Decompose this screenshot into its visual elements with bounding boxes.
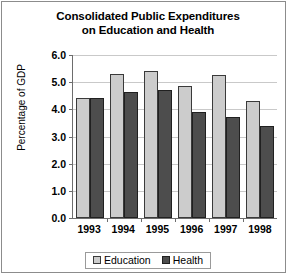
y-axis-tick-label: 2.0 [51, 158, 66, 169]
x-axis-labels: 199319941995199619971998 [72, 223, 277, 235]
bar-health-1996[interactable] [192, 112, 206, 218]
bar-education-1995[interactable] [144, 71, 158, 218]
y-axis-tick-label: 6.0 [51, 50, 66, 61]
bar-group [175, 55, 209, 218]
bar-education-1996[interactable] [178, 86, 192, 218]
x-axis-tick [243, 218, 244, 222]
chart-title-line-1: Consolidated Public Expenditures [28, 9, 268, 23]
y-axis-tick-label: 1.0 [51, 186, 66, 197]
y-axis-title: Percentage of GDP [16, 33, 27, 183]
legend-swatch-health-icon [162, 256, 170, 264]
bar-education-1994[interactable] [110, 74, 124, 218]
bar-health-1995[interactable] [158, 90, 172, 218]
bar-health-1993[interactable] [90, 98, 104, 218]
chart-title-line-2: on Education and Health [28, 23, 268, 37]
chart-title: Consolidated Public Expenditures on Educ… [28, 9, 268, 37]
bar-health-1994[interactable] [124, 92, 138, 218]
y-axis-tick-label: 5.0 [51, 77, 66, 88]
bar-group [73, 55, 107, 218]
x-axis-label-1994: 1994 [106, 223, 140, 235]
x-axis-label-1998: 1998 [243, 223, 277, 235]
legend-item-education[interactable]: Education [93, 254, 151, 266]
x-axis-tick [107, 218, 108, 222]
bar-education-1993[interactable] [76, 98, 90, 218]
bar-group [107, 55, 141, 218]
legend-swatch-education-icon [93, 256, 101, 264]
legend-label: Education [104, 254, 151, 266]
bar-education-1997[interactable] [212, 75, 226, 218]
y-axis-tick-label: 4.0 [51, 104, 66, 115]
x-axis-label-1997: 1997 [209, 223, 243, 235]
x-axis-label-1995: 1995 [140, 223, 174, 235]
x-axis-tick [141, 218, 142, 222]
bar-group [209, 55, 243, 218]
bar-group [141, 55, 175, 218]
bar-health-1998[interactable] [260, 126, 274, 218]
y-axis-tick [69, 218, 73, 219]
chart-legend: EducationHealth [85, 252, 211, 269]
y-axis-tick-label: 3.0 [51, 131, 66, 142]
plot-area: 0.01.02.03.04.05.06.0 [72, 55, 277, 219]
bar-groups [73, 55, 277, 218]
x-axis-tick [175, 218, 176, 222]
y-axis-tick-label: 0.0 [51, 213, 66, 224]
legend-item-health[interactable]: Health [162, 254, 203, 266]
legend-label: Health [173, 254, 203, 266]
chart-frame: Consolidated Public Expenditures on Educ… [1, 1, 286, 273]
bar-education-1998[interactable] [246, 101, 260, 218]
x-axis-label-1993: 1993 [72, 223, 106, 235]
bar-group [243, 55, 277, 218]
bar-health-1997[interactable] [226, 117, 240, 218]
x-axis-tick [209, 218, 210, 222]
x-axis-label-1996: 1996 [175, 223, 209, 235]
